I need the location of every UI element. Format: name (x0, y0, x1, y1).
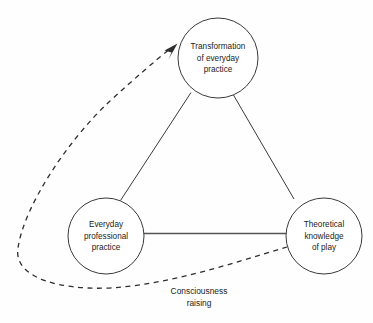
node-transformation-label-line2: of everyday (197, 54, 240, 63)
edge-label-consciousness-raising-line2: raising (187, 298, 212, 308)
concept-diagram: Transformation of everyday practice Ever… (0, 0, 373, 323)
node-everyday-practice-label-line1: Everyday (89, 220, 124, 229)
diagram-canvas: Transformation of everyday practice Ever… (0, 0, 373, 323)
edge-transformation-to-theoretical (232, 93, 294, 200)
node-theoretical-knowledge-label-line2: knowledge (304, 232, 344, 241)
edge-everyday-to-transformation (121, 93, 192, 201)
node-everyday-practice-label-line2: professional (84, 232, 128, 241)
node-theoretical-knowledge-label-line3: of play (312, 243, 337, 252)
node-theoretical-knowledge-label-line1: Theoretical (304, 220, 345, 229)
node-transformation-label-line1: Transformation (191, 42, 246, 51)
edge-label-consciousness-raising-line1: Consciousness (171, 286, 228, 296)
node-transformation-label-line3: practice (204, 65, 233, 74)
node-everyday-practice-label-line3: practice (92, 243, 121, 252)
